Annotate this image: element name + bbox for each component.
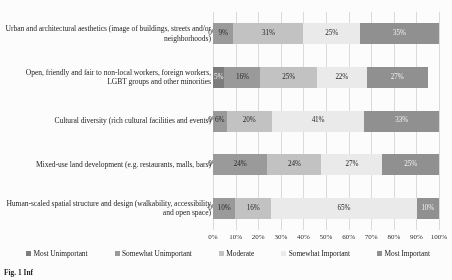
bar-segment-label: 41%: [312, 117, 325, 124]
bar-rows: 0%9%31%25%35%5%16%25%22%27%0%6%20%41%33%…: [213, 12, 439, 230]
bar-segment: 24%: [267, 154, 321, 175]
x-tick-label: 0%: [208, 232, 217, 242]
x-tick-label: 50%: [320, 232, 333, 242]
category-label: Mixed-use land development (e.g. restaur…: [5, 160, 211, 170]
bar-segment-label: 10%: [421, 205, 434, 212]
bar-segment-label: 10%: [218, 205, 231, 212]
legend-swatch-icon: [219, 251, 224, 256]
bar-segment: 20%: [227, 111, 272, 132]
bar-segment: 5%: [213, 67, 224, 88]
legend-label: Somewhat Important: [289, 249, 350, 258]
x-tick-label: 20%: [252, 232, 265, 242]
gridline: [439, 12, 440, 230]
bar-segment-label: 25%: [325, 30, 338, 37]
bar-row: 0%6%20%41%33%: [213, 111, 439, 132]
bar-segment-label: 9%: [218, 30, 227, 37]
bar-segment-label: 25%: [282, 74, 295, 81]
bar-segment-label: 22%: [335, 74, 348, 81]
category-label: Human-scaled spatial structure and desig…: [5, 199, 211, 218]
bar-segment: 25%: [382, 154, 439, 175]
category-axis-labels: Urban and architectural aesthetics (imag…: [4, 12, 212, 230]
bar-segment: 25%: [303, 23, 360, 44]
bar-segment: 31%: [233, 23, 303, 44]
bar-segment-label: 27%: [346, 161, 359, 168]
x-tick-label: 10%: [229, 232, 242, 242]
bar-segment: 16%: [235, 198, 271, 219]
bar-row: 0%24%24%27%25%: [213, 154, 439, 175]
x-axis-tick-labels: 0%10%20%30%40%50%60%70%80%90%100%: [213, 232, 439, 244]
bar-segment: 27%: [367, 67, 428, 88]
bar-segment-label: 27%: [391, 74, 404, 81]
bar-segment-label: 16%: [247, 205, 260, 212]
bar-segment-label: 5%: [214, 74, 223, 81]
x-tick-label: 70%: [365, 232, 378, 242]
legend-item[interactable]: Somewhat Important: [281, 249, 350, 258]
legend-swatch-icon: [26, 251, 31, 256]
legend-label: Somewhat Unimportant: [122, 249, 192, 258]
plot-area: 0%9%31%25%35%5%16%25%22%27%0%6%20%41%33%…: [213, 12, 439, 230]
bar-segment: 6%: [213, 111, 227, 132]
x-tick-label: 100%: [431, 232, 447, 242]
bar-segment: 24%: [213, 154, 267, 175]
legend-label: Most Important: [385, 249, 431, 258]
x-tick-label: 30%: [274, 232, 287, 242]
bar-segment-label: 24%: [288, 161, 301, 168]
bar-segment: 16%: [224, 67, 260, 88]
legend-label: Moderate: [226, 249, 254, 258]
x-tick-label: 60%: [342, 232, 355, 242]
bar-segment-label: 6%: [215, 117, 224, 124]
legend-label: Most Unimportant: [34, 249, 88, 258]
bar-segment-label: 35%: [393, 30, 406, 37]
bar-segment-label: 20%: [243, 117, 256, 124]
chart-legend: Most UnimportantSomewhat UnimportantMode…: [26, 246, 430, 260]
bar-segment: 25%: [260, 67, 317, 88]
bar-segment: 9%: [213, 23, 233, 44]
category-label: Cultural diversity (rich cultural facili…: [5, 116, 211, 126]
legend-item[interactable]: Most Unimportant: [26, 249, 88, 258]
legend-swatch-icon: [281, 251, 286, 256]
bar-segment-label: 16%: [236, 74, 249, 81]
bar-row: 5%16%25%22%27%: [213, 67, 439, 88]
x-tick-label: 80%: [387, 232, 400, 242]
legend-item[interactable]: Most Important: [377, 249, 430, 258]
bar-segment: 10%: [213, 198, 235, 219]
bar-segment: 22%: [317, 67, 367, 88]
bar-segment: 65%: [271, 198, 416, 219]
bar-segment-label: 31%: [262, 30, 275, 37]
bar-segment-label: 24%: [234, 161, 247, 168]
bar-segment-label: 65%: [337, 205, 350, 212]
figure-caption: Fig. 1 Inf: [4, 268, 33, 280]
bar-segment: 10%: [417, 198, 439, 219]
bar-segment: 33%: [364, 111, 439, 132]
category-label: Urban and architectural aesthetics (imag…: [5, 24, 211, 43]
bar-segment: 41%: [272, 111, 365, 132]
x-tick-label: 40%: [297, 232, 310, 242]
legend-item[interactable]: Moderate: [219, 249, 254, 258]
bar-row: 0%10%16%65%10%: [213, 198, 439, 219]
x-tick-label: 90%: [410, 232, 423, 242]
stacked-bar-chart-figure: Urban and architectural aesthetics (imag…: [0, 0, 452, 280]
bar-segment-label: 25%: [404, 161, 417, 168]
bar-segment: 35%: [360, 23, 439, 44]
bar-segment-label: 33%: [395, 117, 408, 124]
legend-item[interactable]: Somewhat Unimportant: [115, 249, 192, 258]
category-label: Open, friendly and fair to non-local wor…: [5, 68, 211, 87]
bar-segment: 27%: [321, 154, 382, 175]
legend-swatch-icon: [377, 251, 382, 256]
legend-swatch-icon: [115, 251, 120, 256]
bar-row: 0%9%31%25%35%: [213, 23, 439, 44]
